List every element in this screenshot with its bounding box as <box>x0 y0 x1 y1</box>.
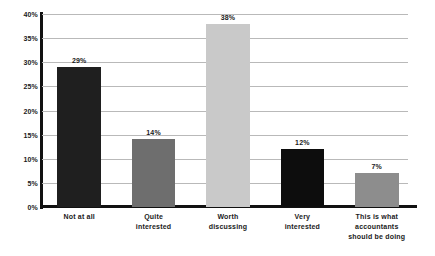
y-axis-tick-label: 35% <box>4 35 38 42</box>
plot-area: 29%14%38%12%7% <box>42 14 414 207</box>
x-axis-category-label-line: Quite <box>116 212 190 222</box>
bar-chart: 0%5%10%15%20%25%30%35%40% 29%14%38%12%7%… <box>0 0 435 256</box>
bar: 29% <box>57 67 101 207</box>
y-axis-tick-label: 5% <box>4 179 38 186</box>
x-axis-category-label-line: accountants <box>340 222 414 232</box>
y-axis-tick-label: 40% <box>4 11 38 18</box>
y-axis-tick-label: 15% <box>4 131 38 138</box>
x-axis-category-label-line: interested <box>265 222 339 232</box>
bar: 38% <box>206 24 250 207</box>
x-axis-category-label: Quiteinterested <box>116 212 190 232</box>
bar: 14% <box>132 139 176 207</box>
x-axis-category-label: Not at all <box>42 212 116 222</box>
y-axis-tick-label: 0% <box>4 204 38 211</box>
y-axis-tick-label: 10% <box>4 155 38 162</box>
bar-value-label: 7% <box>372 163 383 170</box>
x-axis-category-labels: Not at allQuiteinterestedWorthdiscussing… <box>42 212 414 256</box>
bar-value-label: 29% <box>72 57 87 64</box>
x-axis-category-label-line: Worth <box>191 212 265 222</box>
x-axis-category-label-line: Very <box>265 212 339 222</box>
x-axis-category-label-line: Not at all <box>42 212 116 222</box>
x-axis-category-label-line: This is what <box>340 212 414 222</box>
x-axis-category-label: This is whataccountantsshould be doing <box>340 212 414 242</box>
x-axis-category-label-line: should be doing <box>340 232 414 242</box>
y-axis-tick-labels: 0%5%10%15%20%25%30%35%40% <box>0 0 38 256</box>
bar-value-label: 14% <box>146 129 161 136</box>
x-axis-category-label-line: discussing <box>191 222 265 232</box>
x-axis-category-label-line: interested <box>116 222 190 232</box>
bar-value-label: 12% <box>295 139 310 146</box>
bar: 7% <box>355 173 399 207</box>
bar-value-label: 38% <box>221 14 236 21</box>
y-axis-tick-label: 20% <box>4 107 38 114</box>
y-axis-tick-label: 30% <box>4 59 38 66</box>
y-axis-tick-label: 25% <box>4 83 38 90</box>
bar: 12% <box>281 149 325 207</box>
x-axis-category-label: Veryinterested <box>265 212 339 232</box>
x-axis-category-label: Worthdiscussing <box>191 212 265 232</box>
